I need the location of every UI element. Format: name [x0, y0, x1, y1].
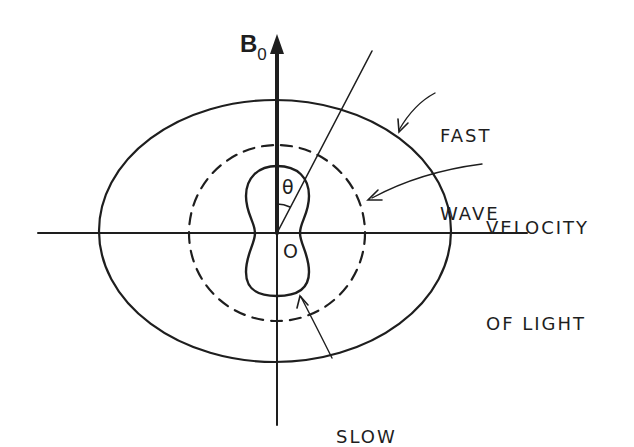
- fast-wave-label-line1: FAST: [440, 123, 500, 149]
- b0-field-label: B0: [240, 30, 267, 63]
- velocity-of-light-label-line1: VELOCITY: [486, 212, 589, 244]
- slow-wave-label: SLOW WAVE: [336, 362, 397, 447]
- wave-surface-diagram: B0 θ O FAST WAVE VELOCITY OF LIGHT SLOW …: [0, 0, 634, 447]
- theta-label: θ: [282, 176, 294, 198]
- fast-wave-leader: [399, 93, 435, 130]
- origin-label: O: [283, 240, 298, 262]
- slow-wave-label-line1: SLOW: [336, 422, 397, 447]
- velocity-of-light-label: VELOCITY OF LIGHT: [486, 148, 589, 404]
- velocity-of-light-label-line2: OF LIGHT: [486, 308, 589, 340]
- fast-wave-arrowhead-icon: [398, 119, 408, 132]
- velocity-of-light-arrowhead-icon: [368, 190, 382, 200]
- b0-arrowhead-icon: [270, 34, 284, 54]
- propagation-direction-line: [277, 51, 372, 233]
